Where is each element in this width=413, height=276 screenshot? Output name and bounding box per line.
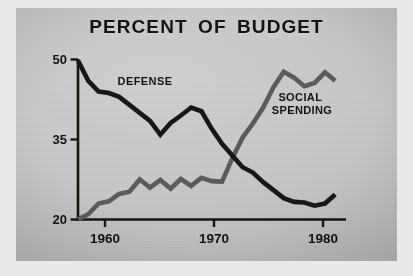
defense-series-label: DEFENSE xyxy=(118,75,173,87)
x-tick-label-1960: 1960 xyxy=(90,231,120,246)
y-tick-label-50: 50 xyxy=(53,52,67,67)
x-tick-label-1970: 1970 xyxy=(199,231,229,246)
x-tick-label-1980: 1980 xyxy=(308,231,338,246)
y-tick-label-20: 20 xyxy=(53,212,67,227)
chart-plot-area: 50 35 20 1960 1970 1980 DEFENSE SOCIAL S… xyxy=(0,0,413,276)
chart-figure: PERCENT OF BUDGET 50 35 20 1960 1970 198… xyxy=(0,0,413,276)
y-tick-label-35: 35 xyxy=(53,132,67,147)
social-spending-series-label: SOCIAL SPENDING xyxy=(272,91,333,116)
